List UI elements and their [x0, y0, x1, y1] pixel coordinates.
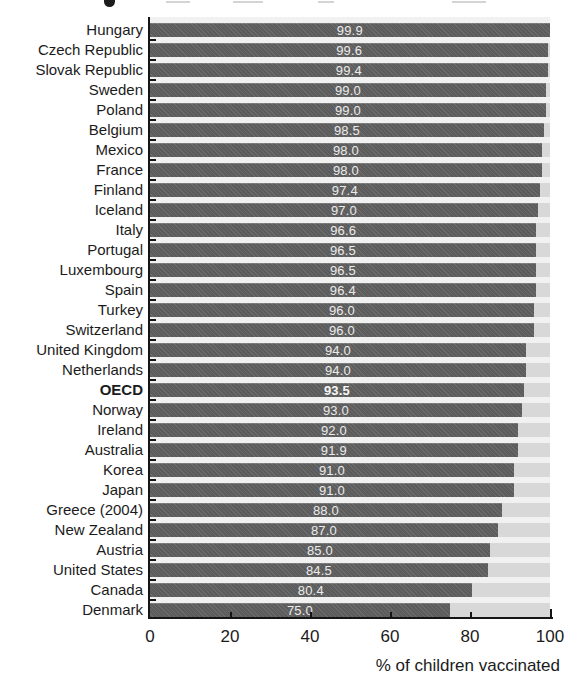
- category-label: Italy: [115, 221, 143, 239]
- value-label: 91.0: [319, 464, 345, 477]
- bar: 91.0: [150, 463, 514, 477]
- scanned-chart-page: 99.999.699.499.099.098.598.098.097.497.0…: [0, 0, 574, 693]
- value-label: 84.5: [306, 564, 332, 577]
- x-tick: [550, 609, 552, 617]
- value-label: 96.4: [330, 284, 356, 297]
- y-tick: [148, 159, 156, 161]
- bar: 97.4: [150, 183, 540, 197]
- y-tick: [148, 439, 156, 441]
- y-tick: [148, 399, 156, 401]
- bar: 94.0: [150, 363, 526, 377]
- y-tick: [148, 319, 156, 321]
- category-label: Netherlands: [62, 361, 143, 379]
- x-tick-label: 0: [120, 627, 180, 647]
- y-tick: [148, 419, 156, 421]
- bar: 91.0: [150, 483, 514, 497]
- value-label: 93.5: [324, 384, 350, 397]
- y-tick: [148, 199, 156, 201]
- y-tick: [148, 459, 156, 461]
- value-label: 91.0: [319, 484, 345, 497]
- value-label: 91.9: [321, 444, 347, 457]
- title-text-fragment: [318, 1, 334, 3]
- title-text-fragment: [452, 1, 486, 3]
- value-label: 99.4: [336, 64, 362, 77]
- category-label: Luxembourg: [60, 261, 143, 279]
- x-tick: [310, 612, 312, 617]
- category-label: Slovak Republic: [35, 61, 143, 79]
- bar: 96.6: [150, 223, 536, 237]
- value-label: 99.0: [335, 84, 361, 97]
- value-label: 96.5: [330, 264, 356, 277]
- category-label: Switzerland: [65, 321, 143, 339]
- bar: 99.0: [150, 83, 546, 97]
- value-label: 94.0: [325, 344, 351, 357]
- y-tick: [148, 239, 156, 241]
- category-label: Hungary: [86, 21, 143, 39]
- bar: 99.0: [150, 103, 546, 117]
- bar: 99.9: [150, 23, 550, 37]
- x-axis-line: [148, 617, 553, 619]
- bar: 96.5: [150, 263, 536, 277]
- y-tick: [148, 499, 156, 501]
- category-label: United Kingdom: [36, 341, 143, 359]
- x-tick-label: 60: [360, 627, 420, 647]
- category-label: Iceland: [95, 201, 143, 219]
- y-tick: [148, 479, 156, 481]
- category-label: OECD: [100, 381, 143, 399]
- bar: 80.4: [150, 583, 472, 597]
- bar: 94.0: [150, 343, 526, 357]
- bar: 85.0: [150, 543, 490, 557]
- value-label: 80.4: [298, 584, 324, 597]
- y-tick: [148, 59, 156, 61]
- bar: 96.0: [150, 323, 534, 337]
- value-label: 97.0: [331, 204, 357, 217]
- category-label: Denmark: [82, 601, 143, 619]
- value-label: 99.9: [337, 24, 363, 37]
- bar: 96.5: [150, 243, 536, 257]
- category-label: Portugal: [87, 241, 143, 259]
- bar: 87.0: [150, 523, 498, 537]
- title-text-fragment: [166, 1, 190, 3]
- category-label: Japan: [102, 481, 143, 499]
- y-tick: [148, 579, 156, 581]
- bar: 99.4: [150, 63, 548, 77]
- title-letter-fragment: [104, 0, 115, 7]
- value-label: 97.4: [332, 184, 358, 197]
- value-label: 96.0: [329, 304, 355, 317]
- y-tick: [148, 79, 156, 81]
- category-label: Belgium: [89, 121, 143, 139]
- value-label: 98.0: [333, 164, 359, 177]
- category-label: Greece (2004): [46, 501, 143, 519]
- bar: 91.9: [150, 443, 518, 457]
- category-label: Ireland: [97, 421, 143, 439]
- plot-area: 99.999.699.499.099.098.598.098.097.497.0…: [150, 17, 550, 617]
- y-tick: [148, 339, 156, 341]
- value-label: 94.0: [325, 364, 351, 377]
- bar: 88.0: [150, 503, 502, 517]
- value-label: 92.0: [321, 424, 347, 437]
- bar: 98.0: [150, 143, 542, 157]
- y-tick: [148, 39, 156, 41]
- value-label: 99.0: [335, 104, 361, 117]
- bar: 96.0: [150, 303, 534, 317]
- bar: 93.5: [150, 383, 524, 397]
- bar: 92.0: [150, 423, 518, 437]
- bar: 99.6: [150, 43, 548, 57]
- value-label: 93.0: [323, 404, 349, 417]
- y-tick: [148, 519, 156, 521]
- category-label: France: [96, 161, 143, 179]
- y-tick: [148, 139, 156, 141]
- y-tick: [148, 359, 156, 361]
- category-label: Poland: [96, 101, 143, 119]
- category-label: New Zealand: [55, 521, 143, 539]
- category-label: Canada: [90, 581, 143, 599]
- bar: 93.0: [150, 403, 522, 417]
- category-label: United States: [53, 561, 143, 579]
- bar: 97.0: [150, 203, 538, 217]
- x-tick: [470, 612, 472, 617]
- category-label: Turkey: [98, 301, 143, 319]
- category-label: Finland: [94, 181, 143, 199]
- bar: 96.4: [150, 283, 536, 297]
- category-label: Mexico: [95, 141, 143, 159]
- y-tick: [148, 539, 156, 541]
